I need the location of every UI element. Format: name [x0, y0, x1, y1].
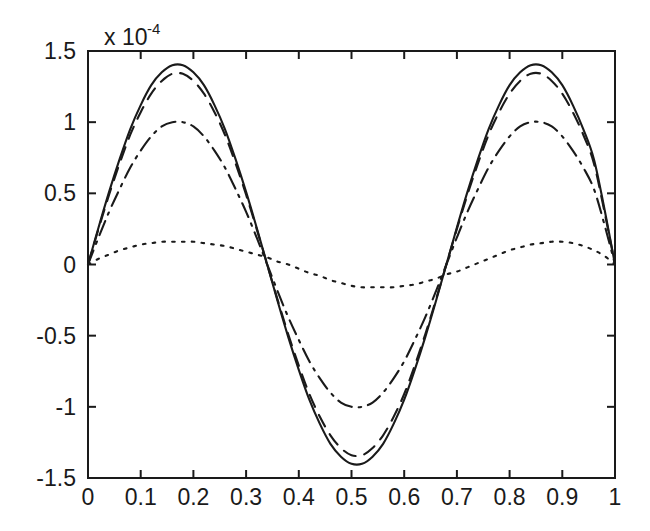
x-tick-label: 0.9 — [546, 484, 578, 510]
x-axis-tick-labels: 00.10.20.30.40.50.60.70.80.91 — [82, 484, 622, 510]
data-series-curve-2 — [88, 73, 615, 456]
y-axis-exponent-label: x 10 -4 — [104, 20, 160, 50]
x-tick-label: 0.7 — [441, 484, 473, 510]
y-axis-tick-labels: 1.510.50-0.5-1-1.5 — [36, 38, 76, 491]
x-tick-label: 0 — [82, 484, 95, 510]
data-series-curve-4 — [88, 242, 615, 288]
y-tick-label: 1.5 — [44, 38, 76, 64]
figure-container: x 10 -4 00.10.20.30.40.50.60.70.80.91 1.… — [0, 0, 650, 531]
tick-marks — [88, 51, 615, 478]
x-tick-label: 0.4 — [283, 484, 315, 510]
x-tick-label: 0.3 — [230, 484, 262, 510]
y-axis-exponent-power: -4 — [147, 20, 160, 37]
data-series-curve-3 — [88, 122, 615, 408]
line-chart: x 10 -4 00.10.20.30.40.50.60.70.80.91 1.… — [0, 0, 650, 531]
y-tick-label: 0 — [63, 252, 76, 278]
y-tick-label: -1 — [56, 394, 76, 420]
x-tick-label: 0.6 — [388, 484, 420, 510]
x-tick-label: 0.5 — [336, 484, 368, 510]
y-axis-exponent-base: x 10 — [104, 24, 147, 50]
axis-frame — [88, 51, 615, 478]
x-tick-label: 1 — [609, 484, 622, 510]
x-tick-label: 0.8 — [494, 484, 526, 510]
curves-group — [88, 64, 615, 464]
y-tick-label: -1.5 — [36, 465, 76, 491]
x-tick-label: 0.2 — [177, 484, 209, 510]
y-tick-label: 0.5 — [44, 180, 76, 206]
y-tick-label: -0.5 — [36, 323, 76, 349]
y-tick-label: 1 — [63, 109, 76, 135]
x-tick-label: 0.1 — [125, 484, 157, 510]
